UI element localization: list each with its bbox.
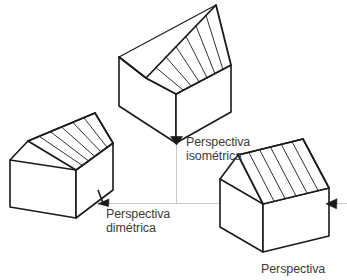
dimetric-house-gable-edge-left [10,141,28,160]
label-perspectiva-isometrica-line2: isométrica [186,149,242,163]
label-perspectiva-isometrica: Perspectivaisométrica [186,136,250,163]
label-perspectiva-dimetrica-line1: Perspectiva [106,207,170,221]
dimetric-house-front-wall [10,160,76,218]
label-perspectiva-dimetrica-line2: dimétrica [106,221,156,235]
label-perspectiva-dimetrica: Perspectivadimétrica [106,208,170,235]
label-perspectiva-line1: Perspectiva [261,262,325,276]
isometric-house [119,5,231,143]
label-perspectiva: Perspectiva [261,263,325,277]
label-perspectiva-isometrica-line1: Perspectiva [186,135,250,149]
dimetric-house [10,113,113,218]
projection-diagram [0,0,347,280]
